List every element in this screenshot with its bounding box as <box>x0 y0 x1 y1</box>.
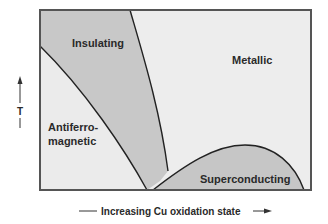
x-axis-arrow-icon <box>253 209 272 214</box>
insulating-label: Insulating <box>72 37 124 49</box>
antiferromagnetic-label-line1: Antiferro- <box>48 121 98 133</box>
y-axis-label: T <box>17 106 23 117</box>
x-axis-label: Increasing Cu oxidation state <box>101 206 241 217</box>
superconducting-label: Superconducting <box>200 173 290 185</box>
phase-diagram: Insulating Metallic Antiferro- magnetic … <box>0 0 328 224</box>
metallic-label: Metallic <box>232 54 272 66</box>
y-axis-arrow-icon <box>18 76 23 128</box>
antiferromagnetic-label-line2: magnetic <box>48 135 96 147</box>
